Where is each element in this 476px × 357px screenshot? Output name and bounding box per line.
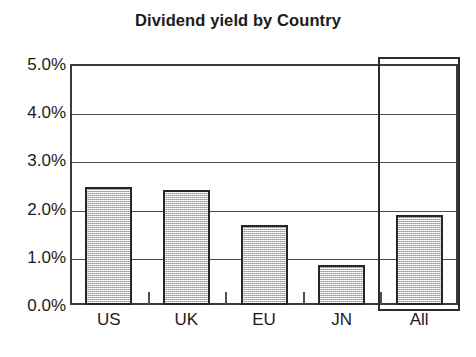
x-axis-tick-mark	[303, 292, 305, 305]
bar-us	[85, 187, 132, 305]
bar-jn	[318, 265, 365, 305]
y-axis-tick-label: 1.0%	[2, 249, 66, 266]
bar-eu	[241, 225, 288, 305]
x-axis-tick-labels: USUKEUJNAll	[70, 309, 458, 349]
x-axis-tick-label-uk: UK	[148, 309, 226, 331]
chart-title: Dividend yield by Country	[0, 11, 476, 30]
x-axis-tick-label-eu: EU	[225, 309, 303, 331]
y-axis-tick-label: 2.0%	[2, 201, 66, 218]
bars-layer	[70, 64, 458, 305]
y-axis-tick-label: 0.0%	[2, 297, 66, 314]
x-axis-tick-mark	[225, 292, 227, 305]
x-axis-tick-mark	[380, 292, 382, 305]
y-axis-tick-labels: 5.0%4.0%3.0%2.0%1.0%0.0%	[0, 0, 66, 357]
x-axis-tick-mark	[148, 292, 150, 305]
bar-uk	[163, 190, 210, 305]
bar-chart-figure: Dividend yield by Country 5.0%4.0%3.0%2.…	[0, 0, 476, 357]
y-axis-tick-label: 4.0%	[2, 104, 66, 121]
y-axis-tick-label: 5.0%	[2, 56, 66, 73]
y-axis-tick-label: 3.0%	[2, 152, 66, 169]
x-axis-tick-label-jn: JN	[303, 309, 381, 331]
x-axis-tick-label-us: US	[70, 309, 148, 331]
x-axis-tick-label-all: All	[380, 309, 458, 331]
bar-all	[396, 215, 443, 305]
